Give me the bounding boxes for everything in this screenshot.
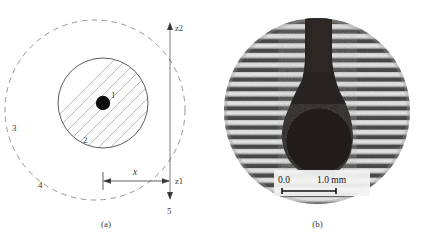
outer-dashed-circle bbox=[5, 20, 185, 200]
axis-arrow-down bbox=[167, 192, 173, 200]
panel-b-svg: 0.0 1.0 mm bbox=[212, 0, 423, 218]
x-dim-arrow-right bbox=[162, 178, 170, 184]
callout-2: 2 bbox=[83, 135, 88, 145]
figure-container: 1 2 3 4 5 z2 z1 x (a) bbox=[0, 0, 423, 246]
panel-a-caption: (a) bbox=[0, 219, 212, 229]
x-dim-arrow-left bbox=[103, 178, 111, 184]
axis-label-z1: z1 bbox=[175, 176, 183, 186]
teardrop-core bbox=[286, 108, 352, 174]
callout-5: 5 bbox=[167, 206, 172, 216]
axis-arrow-up bbox=[167, 22, 173, 30]
callout-1: 1 bbox=[111, 90, 116, 100]
scale-bar-right-label: 1.0 mm bbox=[317, 175, 347, 185]
panel-b-micrograph: 0.0 1.0 mm (b) bbox=[212, 0, 423, 246]
hatch-fill bbox=[40, 0, 180, 218]
panel-a-svg: 1 2 3 4 5 z2 z1 x bbox=[0, 0, 212, 218]
scale-bar-left-label: 0.0 bbox=[278, 175, 290, 185]
scale-bar: 0.0 1.0 mm bbox=[274, 170, 370, 196]
teardrop-stem-shading bbox=[307, 14, 331, 72]
panel-a-schematic: 1 2 3 4 5 z2 z1 x (a) bbox=[0, 0, 212, 246]
x-dimension-label: x bbox=[132, 167, 138, 177]
callout-4: 4 bbox=[38, 180, 43, 190]
callout-3: 3 bbox=[12, 123, 17, 133]
axis-label-z2: z2 bbox=[175, 23, 183, 33]
center-dot bbox=[96, 96, 110, 110]
panel-b-caption: (b) bbox=[212, 219, 423, 229]
